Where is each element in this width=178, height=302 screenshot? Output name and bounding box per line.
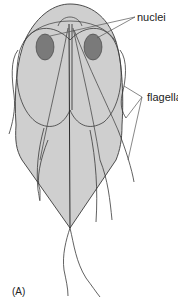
label-flagella: flagella	[147, 92, 178, 103]
giardia-diagram: nuclei flagella (A)	[0, 0, 178, 302]
nucleus-left	[36, 34, 54, 60]
label-nuclei: nuclei	[137, 12, 166, 23]
cell-illustration	[0, 0, 178, 302]
panel-label: (A)	[12, 287, 25, 297]
flagellum-caudal-1	[63, 228, 70, 296]
nucleus-right	[84, 34, 102, 60]
flagellum-caudal-2	[70, 228, 100, 297]
leader-flagella	[124, 86, 142, 160]
